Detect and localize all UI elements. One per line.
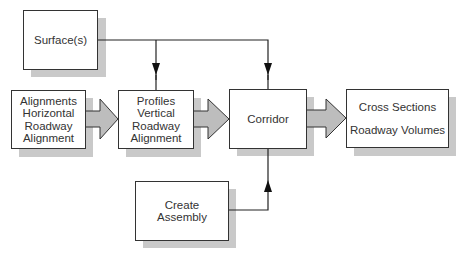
profiles-label-2: Vertical [137,107,175,120]
profiles-label-1: Profiles [137,95,175,108]
outputs-label-2: Roadway Volumes [350,124,445,137]
assembly-label-1: Create [165,199,200,212]
alignments-label-4: Alignment [23,132,74,145]
assembly-node: Create Assembly [135,181,229,241]
alignments-label-2: Horizontal [23,107,75,120]
assembly-label-2: Assembly [157,211,207,224]
profiles-node: Profiles Vertical Roadway Alignment [118,90,194,149]
surfaces-label: Surface(s) [34,34,87,47]
profiles-label-4: Alignment [130,132,181,145]
outputs-label-1: Cross Sections [359,101,436,114]
corridor-node: Corridor [229,89,307,149]
alignments-label-1: Alignments [20,95,77,108]
alignments-label-3: Roadway [25,120,73,133]
profiles-label-3: Roadway [132,120,180,133]
alignments-node: Alignments Horizontal Roadway Alignment [11,90,86,149]
corridor-label: Corridor [247,113,289,126]
surfaces-node: Surface(s) [23,10,98,70]
outputs-node: Cross Sections Roadway Volumes [346,89,449,148]
